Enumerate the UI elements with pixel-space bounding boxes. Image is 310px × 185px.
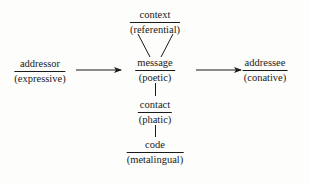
function-label: (metalingual) [127,153,184,166]
function-label: (expressive) [14,72,65,85]
function-label: (referential) [130,23,180,36]
function-label: (conative) [243,71,288,84]
node-addressee: addressee (conative) [243,57,288,84]
factor-label: context [130,9,180,23]
node-code: code (metalingual) [127,139,184,166]
node-context: context (referential) [130,9,180,36]
factor-label: code [127,139,184,153]
factor-label: contact [138,99,172,113]
context-to-message-right-line [161,34,173,57]
node-message: message (poetic) [135,57,175,84]
node-contact: contact (phatic) [138,99,172,126]
factor-label: addressee [243,57,288,71]
node-addressor: addressor (expressive) [14,58,65,85]
factor-label: message [135,57,175,71]
factor-label: addressor [14,58,65,72]
function-label: (phatic) [138,113,172,126]
function-label: (poetic) [135,71,175,84]
context-to-message-left-line [138,34,150,57]
